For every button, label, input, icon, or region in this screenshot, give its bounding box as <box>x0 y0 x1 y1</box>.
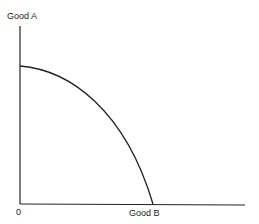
x-axis-label: Good B <box>129 208 160 218</box>
origin-label: 0 <box>16 207 21 217</box>
x-axis <box>20 204 245 205</box>
ppf-diagram <box>0 0 259 224</box>
y-axis-label: Good A <box>7 11 37 21</box>
ppf-curve <box>20 66 153 204</box>
